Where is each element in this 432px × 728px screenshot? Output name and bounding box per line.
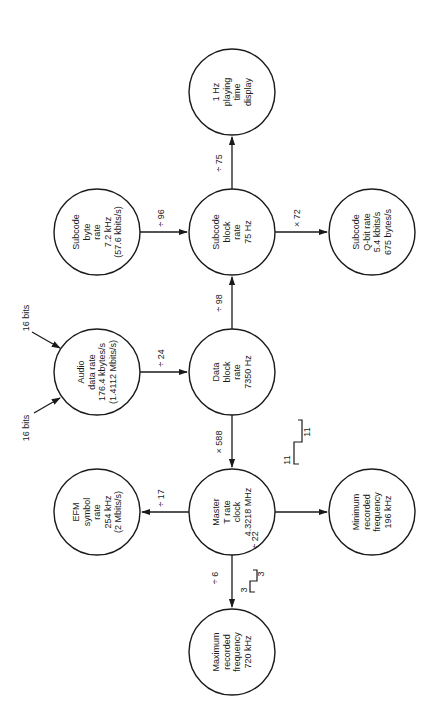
node-master-clock: MasterT rateclock4.3218 MHz <box>189 469 275 555</box>
nodes: 1 HzplayingtimedisplaySubcodebyterate7.2… <box>54 49 415 695</box>
waveform-label: 3 <box>239 587 249 592</box>
node-subcode-byte: Subcodebyterate7.2 kHz(57.6 kbits/s) <box>54 189 140 275</box>
node-label: Maximumrecordedfrequency720 kHz <box>211 632 253 672</box>
min-waveform-icon <box>294 420 302 464</box>
edge-label-data-block-master-clock: × 588 <box>214 431 224 454</box>
edge-label-subcode-byte-subcode-block: ÷ 96 <box>156 209 166 226</box>
edge-label-subcode-block-subcode-qbit: × 72 <box>292 209 302 227</box>
node-subcode-block: Subcodeblockrate75 Hz <box>189 189 275 275</box>
edge-label-subcode-block-playing-time: ÷ 75 <box>214 154 224 171</box>
edge-label-master-clock-efm-symbol: ÷ 17 <box>156 489 166 506</box>
input-label-upper: 16 bits <box>21 304 31 331</box>
waveform-label: 11 <box>282 455 292 464</box>
edge-input-lower <box>34 398 60 413</box>
waveform-label: 11 <box>302 427 312 436</box>
edge-input-upper <box>32 332 60 348</box>
edge-label-master-clock-min-freq: ÷ 22 <box>250 531 260 548</box>
node-max-freq: Maximumrecordedfrequency720 kHz <box>189 609 275 695</box>
input-label-lower: 16 bits <box>21 414 31 441</box>
cd-clock-diagram: 1 HzplayingtimedisplaySubcodebyterate7.2… <box>0 0 432 728</box>
node-data-block: Datablockrate7350 Hz <box>189 329 275 415</box>
edge-label-data-block-subcode-block: ÷ 98 <box>214 294 224 311</box>
node-label: SubcodeQ-bit rate5.4 kbits/s675 bytes/s <box>351 208 393 255</box>
node-min-freq: Minimumrecordedfrequency196 kHz <box>329 469 415 555</box>
edge-label-audio-data-data-block: ÷ 24 <box>156 349 166 366</box>
waveform-label: 3 <box>256 571 266 576</box>
node-audio-data: Audiodata rate176.4 kbytes/s(1.4112 Mbit… <box>54 329 140 415</box>
node-label: Minimumrecordedfrequency196 kHz <box>351 492 393 532</box>
node-subcode-qbit: SubcodeQ-bit rate5.4 kbits/s675 bytes/s <box>329 189 415 275</box>
edge-label-master-clock-max-freq: ÷ 6 <box>210 572 220 584</box>
node-efm-symbol: EFMsymbolrate254 kHz(2 Mbits/s) <box>54 469 140 555</box>
node-playing-time: 1 Hzplayingtimedisplay <box>189 49 275 135</box>
